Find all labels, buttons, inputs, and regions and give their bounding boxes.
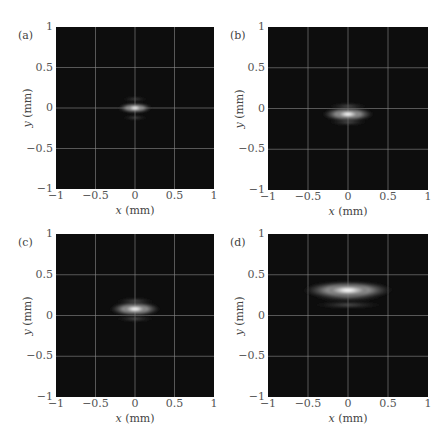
- y-tick-label: −0.5: [238, 350, 265, 362]
- x-tick-label: 0: [132, 190, 139, 202]
- y-tick-label: −0.5: [238, 143, 265, 155]
- y-axis-unit: (mm): [233, 89, 246, 118]
- x-tick-label: −0.5: [82, 398, 109, 410]
- beam-profile-image: [56, 234, 214, 397]
- x-tick-label: 1: [425, 191, 432, 203]
- y-tick-label: −0.5: [26, 350, 53, 362]
- y-tick-label: 0: [258, 103, 265, 115]
- y-tick-label: 1: [46, 21, 53, 33]
- y-axis-var: y: [233, 122, 246, 128]
- beam-spot: [118, 97, 153, 120]
- x-tick-label: 0.5: [166, 190, 184, 202]
- x-tick-label: −0.5: [295, 398, 322, 410]
- beam-spot: [302, 281, 395, 309]
- y-tick-label: 0: [258, 310, 265, 322]
- beam-profile-image: [268, 27, 428, 190]
- y-tick-label: −1: [37, 391, 53, 403]
- x-axis-var: x: [115, 204, 121, 217]
- x-tick-label: 0.5: [379, 398, 397, 410]
- x-axis-var: x: [328, 412, 334, 425]
- y-tick-label: −0.5: [26, 143, 53, 155]
- x-axis-label: x (mm): [328, 412, 367, 425]
- panel-label: (d): [230, 236, 246, 249]
- x-tick-label: 0: [345, 191, 352, 203]
- y-axis-unit: (mm): [233, 296, 246, 325]
- y-axis-label: y (mm): [233, 89, 246, 128]
- y-tick-label: 1: [46, 228, 53, 240]
- y-tick-label: 0.5: [36, 269, 54, 281]
- x-tick-label: −0.5: [82, 190, 109, 202]
- x-axis-label: x (mm): [115, 412, 154, 425]
- y-axis-var: y: [233, 329, 246, 335]
- panel-label: (b): [230, 29, 246, 42]
- y-tick-label: −1: [249, 184, 265, 196]
- x-axis-unit: (mm): [338, 205, 367, 218]
- x-tick-label: 1: [211, 190, 218, 202]
- beam-spot: [322, 103, 375, 126]
- x-tick-label: 0.5: [166, 398, 184, 410]
- beam-profile-image: [268, 234, 428, 397]
- x-axis-label: x (mm): [328, 205, 367, 218]
- y-tick-label: 0.5: [36, 62, 54, 74]
- y-axis-label: y (mm): [21, 296, 34, 335]
- y-axis-label: y (mm): [233, 296, 246, 335]
- beam-profile-image: [56, 27, 214, 189]
- y-tick-label: −1: [249, 391, 265, 403]
- y-axis-unit: (mm): [21, 88, 34, 117]
- panel-label: (c): [18, 236, 33, 249]
- x-tick-label: 1: [425, 398, 432, 410]
- x-axis-var: x: [115, 412, 121, 425]
- y-axis-var: y: [21, 121, 34, 127]
- x-axis-label: x (mm): [115, 204, 154, 217]
- y-tick-label: 0.5: [248, 269, 266, 281]
- y-axis-unit: (mm): [21, 296, 34, 325]
- y-tick-label: 1: [258, 21, 265, 33]
- x-tick-label: 0.5: [379, 191, 397, 203]
- y-tick-label: 0: [46, 102, 53, 114]
- beam-spot: [109, 298, 161, 322]
- x-axis-unit: (mm): [125, 412, 154, 425]
- y-tick-label: −1: [37, 183, 53, 195]
- y-axis-var: y: [21, 329, 34, 335]
- x-axis-var: x: [328, 205, 334, 218]
- y-tick-label: 0.5: [248, 62, 266, 74]
- x-axis-unit: (mm): [125, 204, 154, 217]
- x-tick-label: 0: [132, 398, 139, 410]
- x-tick-label: 1: [211, 398, 218, 410]
- y-tick-label: 1: [258, 228, 265, 240]
- y-axis-label: y (mm): [21, 88, 34, 127]
- x-tick-label: −0.5: [295, 191, 322, 203]
- x-tick-label: 0: [345, 398, 352, 410]
- panel-label: (a): [18, 29, 33, 42]
- y-tick-label: 0: [46, 310, 53, 322]
- x-axis-unit: (mm): [338, 412, 367, 425]
